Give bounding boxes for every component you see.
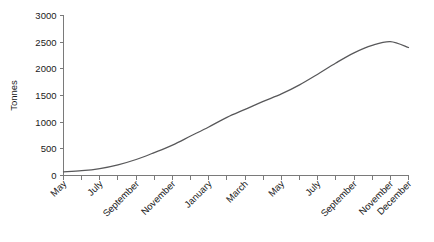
svg-text:March: March — [224, 178, 250, 204]
svg-text:September: September — [100, 178, 141, 219]
data-series-line — [64, 42, 409, 172]
svg-text:0: 0 — [51, 170, 56, 181]
svg-text:1000: 1000 — [35, 117, 56, 128]
y-axis-ticks — [60, 16, 64, 176]
svg-text:September: September — [318, 178, 359, 219]
x-axis-tick-labels: MayJulySeptemberNovemberJanuaryMarchMayJ… — [48, 178, 413, 219]
svg-text:1500: 1500 — [35, 90, 56, 101]
y-axis-title: Tonnes — [8, 80, 19, 111]
svg-text:January: January — [182, 178, 214, 210]
chart-container: 050010001500200025003000 MayJulySeptembe… — [0, 0, 434, 242]
svg-text:500: 500 — [41, 143, 57, 154]
svg-text:3000: 3000 — [35, 10, 56, 21]
y-axis-group: 050010001500200025003000 — [35, 10, 63, 181]
y-axis-tick-labels: 050010001500200025003000 — [35, 10, 56, 181]
svg-text:May: May — [48, 178, 69, 199]
svg-text:July: July — [85, 178, 105, 198]
svg-text:November: November — [139, 178, 178, 217]
svg-text:July: July — [303, 178, 323, 198]
svg-text:2000: 2000 — [35, 63, 56, 74]
x-axis-ticks — [64, 176, 409, 180]
svg-text:May: May — [266, 178, 287, 199]
svg-text:2500: 2500 — [35, 37, 56, 48]
line-chart: 050010001500200025003000 MayJulySeptembe… — [0, 0, 434, 242]
x-axis-group: MayJulySeptemberNovemberJanuaryMarchMayJ… — [48, 176, 413, 219]
